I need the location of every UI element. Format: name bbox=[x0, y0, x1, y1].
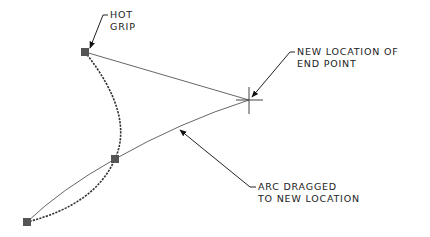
hot-grip-icon[interactable] bbox=[81, 48, 89, 56]
new-location-label-line2: END POINT bbox=[297, 58, 399, 70]
arc-dragged-label-line2: TO NEW LOCATION bbox=[258, 193, 360, 205]
original-arc bbox=[27, 52, 121, 222]
hot-grip-label-line2: GRIP bbox=[110, 21, 136, 33]
new-location-label: NEW LOCATION OF END POINT bbox=[297, 46, 399, 70]
mid-grip-icon[interactable] bbox=[111, 155, 119, 163]
hot-grip-label-line1: HOT bbox=[110, 9, 136, 21]
crosshair-cursor-icon bbox=[236, 87, 263, 114]
new-location-label-line1: NEW LOCATION OF bbox=[297, 46, 399, 58]
end-grip-icon[interactable] bbox=[23, 218, 31, 226]
hot-grip-leader bbox=[90, 15, 108, 48]
new-location-leader bbox=[252, 52, 295, 97]
arc-diagram bbox=[0, 0, 430, 237]
dragged-arc bbox=[27, 100, 249, 222]
arc-dragged-leader bbox=[180, 130, 256, 187]
hot-grip-label: HOT GRIP bbox=[110, 9, 136, 33]
arc-dragged-label-line1: ARC DRAGGED bbox=[258, 181, 360, 193]
arc-dragged-label: ARC DRAGGED TO NEW LOCATION bbox=[258, 181, 360, 205]
rubber-band-line bbox=[85, 52, 249, 100]
